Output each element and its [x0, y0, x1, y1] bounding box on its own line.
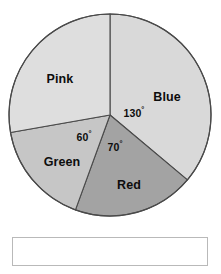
pie-chart-figure: Pink Blue Green Red 130° 60° 70° [0, 0, 221, 222]
pie-slice-label-red: Red [117, 179, 141, 192]
degree-symbol-icon: ° [141, 105, 144, 114]
angle-value-red: 70 [108, 141, 120, 153]
answer-box[interactable] [12, 237, 208, 266]
degree-symbol-icon: ° [119, 139, 122, 148]
pie-slice-label-green: Green [44, 156, 81, 169]
angle-label-green: 60° [77, 130, 92, 142]
angle-value-blue: 130 [124, 107, 142, 119]
pie-chart-svg [0, 0, 221, 222]
pie-slice-label-pink: Pink [47, 73, 74, 86]
angle-label-red: 70° [108, 140, 123, 152]
pie-slice-label-blue: Blue [153, 91, 181, 104]
angle-value-green: 60 [77, 131, 89, 143]
angle-label-blue: 130° [124, 106, 145, 118]
degree-symbol-icon: ° [88, 129, 91, 138]
